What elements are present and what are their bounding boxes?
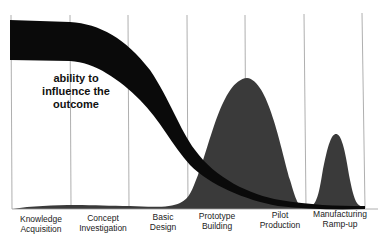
annotation-line-1: ability to: [36, 72, 116, 85]
phase-label-line: Ramp-up: [305, 219, 375, 229]
annotation-line-2: influence the: [36, 85, 116, 98]
phase-label-line: Knowledge: [6, 214, 76, 224]
phase-label-manufacturing-ramp-up: Manufacturing Ramp-up: [305, 209, 375, 229]
phase-label-knowledge-acquisition: Knowledge Acquisition: [6, 214, 76, 234]
influence-annotation: ability to influence the outcome: [36, 72, 116, 111]
phase-label-line: Prototype: [182, 211, 252, 221]
annotation-line-3: outcome: [36, 98, 116, 111]
phase-label-line: Manufacturing: [305, 209, 375, 219]
phase-label-prototype-building: Prototype Building: [182, 211, 252, 231]
phase-label-line: Building: [182, 221, 252, 231]
phase-label-line: Acquisition: [6, 224, 76, 234]
